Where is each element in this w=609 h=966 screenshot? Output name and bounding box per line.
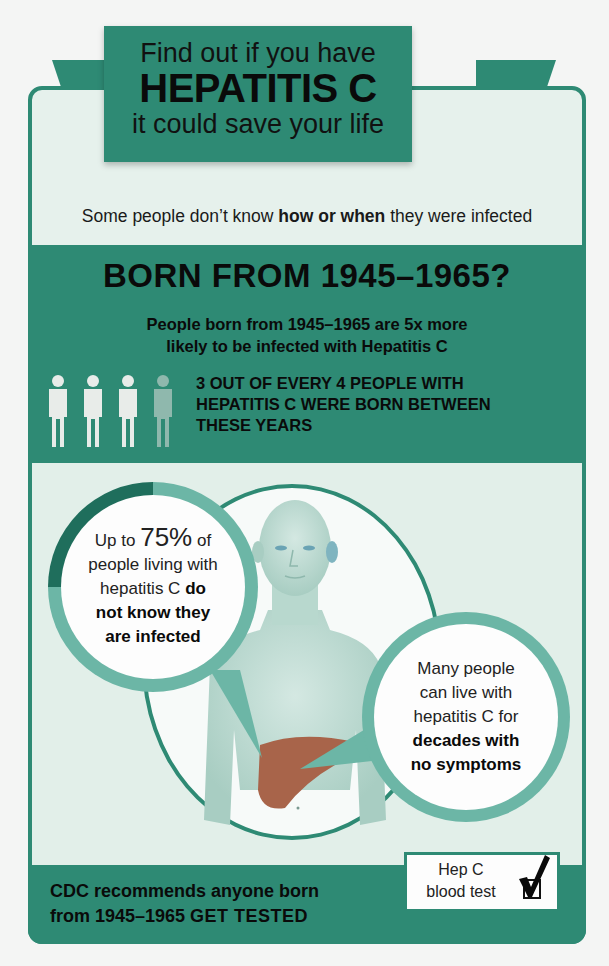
bubble-right-text: Many people can live with hepatitis C fo… [411, 657, 522, 777]
subtitle-prefix: Some people don’t know [82, 206, 279, 226]
checkmark-icon [515, 853, 551, 899]
bubble-left-line3-bold: do [185, 579, 206, 598]
bubble-left-prefix: Up to [95, 531, 140, 550]
bubble-right-line2: can live with [420, 683, 513, 702]
bubble-right-line3: hepatitis C for [414, 707, 519, 726]
bubble-left-line5: are infected [105, 627, 200, 646]
footer-line1: CDC recommends anyone born [50, 881, 319, 901]
bubble-left-line4: not know they [96, 603, 210, 622]
born-section: BORN FROM 1945–1965? People born from 19… [28, 245, 586, 463]
title-line-3: it could save your life [104, 108, 412, 140]
cdc-recommendation: CDC recommends anyone born from 1945–196… [50, 879, 319, 929]
subtitle: Some people don’t know how or when they … [28, 206, 586, 227]
born-description: People born from 1945–1965 are 5x more l… [28, 313, 586, 357]
stat-line: HEPATITIS C WERE BORN BETWEEN [196, 394, 491, 415]
test-line1: Hep C [438, 861, 483, 878]
subtitle-bold: how or when [278, 206, 385, 226]
born-desc-bold: 5x more [404, 315, 467, 333]
footer-line2: from 1945–1965 [50, 906, 190, 926]
bubble-right-line1: Many people [417, 659, 514, 678]
people-icons [46, 375, 175, 447]
born-desc-line2: likely to be infected with Hepatitis C [166, 337, 447, 355]
born-heading: BORN FROM 1945–1965? [28, 257, 586, 295]
bubble-pointer-left [200, 670, 280, 770]
stat-bubble-75-percent: Up to 75% of people living with hepatiti… [48, 482, 258, 692]
bubble-left-text: Up to 75% of people living with hepatiti… [88, 525, 217, 649]
stat-line: 3 OUT OF EVERY 4 PEOPLE WITH [196, 373, 491, 394]
bubble-left-after: of [192, 531, 211, 550]
title-line-1: Find out if you have [104, 38, 412, 68]
title-ribbon: Find out if you have HEPATITIS C it coul… [104, 26, 412, 162]
subtitle-suffix: they were infected [385, 206, 532, 226]
three-of-four-stat: 3 OUT OF EVERY 4 PEOPLE WITH HEPATITIS C… [196, 373, 491, 436]
person-icon [116, 375, 140, 447]
born-desc-prefix: People born from 1945–1965 are [146, 315, 404, 333]
person-icon-faded [151, 375, 175, 447]
blood-test-label: Hep C blood test [417, 859, 505, 903]
bubble-right-line5: no symptoms [411, 755, 522, 774]
stat-bubble-no-symptoms: Many people can live with hepatitis C fo… [362, 612, 570, 822]
bubble-right-line4: decades with [413, 731, 520, 750]
person-icon [46, 375, 70, 447]
person-icon [81, 375, 105, 447]
get-tested-text: GET TESTED [190, 906, 308, 926]
bubble-left-line2: people living with [88, 555, 217, 574]
bubble-left-line3: hepatitis C [100, 579, 185, 598]
stat-line: THESE YEARS [196, 415, 491, 436]
title-main: HEPATITIS C [104, 68, 412, 108]
blood-test-box: Hep C blood test [404, 852, 560, 912]
percent-value: 75% [140, 522, 192, 552]
test-line2: blood test [426, 883, 495, 900]
